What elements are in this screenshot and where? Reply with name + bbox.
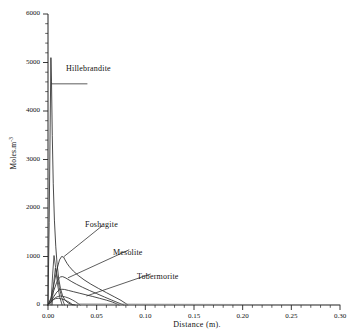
series-group <box>48 58 340 305</box>
x-tick-label: 0.25 <box>277 312 305 320</box>
y-tick-label: 1000 <box>0 252 40 260</box>
series-line <box>48 58 75 305</box>
y-axis-title: Moles.m-3 <box>8 118 19 188</box>
figure: Moles.m-3 Distance (m). Hillebrandite Fo… <box>0 0 358 336</box>
annotation-leader-line <box>64 226 102 257</box>
x-axis-title-text: Distance (m). <box>173 320 220 329</box>
annotation-tobermorite: Tobermorite <box>137 272 179 281</box>
y-tick-label: 2000 <box>0 203 40 211</box>
x-tick-label: 0.10 <box>131 312 159 320</box>
annotation-mesolite: Mesolite <box>113 248 143 257</box>
y-tick-label: 4000 <box>0 106 40 114</box>
y-tick-label: 5000 <box>0 58 40 66</box>
annotation-leaders <box>51 84 150 296</box>
axes-group <box>43 14 340 310</box>
x-tick-label: 0.15 <box>180 312 208 320</box>
x-tick-label: 0.05 <box>83 312 111 320</box>
y-axis-title-superscript: -3 <box>8 137 14 142</box>
x-tick-label: 0.30 <box>326 312 354 320</box>
chart-canvas <box>0 0 358 336</box>
x-tick-label: 0.00 <box>34 312 62 320</box>
annotation-hillebrandite: Hillebrandite <box>66 64 111 73</box>
x-axis-title: Distance (m). <box>0 320 358 329</box>
annotation-foshagite: Foshagite <box>85 220 118 229</box>
y-tick-label: 6000 <box>0 9 40 17</box>
x-tick-label: 0.20 <box>229 312 257 320</box>
y-tick-label: 0 <box>0 300 40 308</box>
y-tick-label: 3000 <box>0 155 40 163</box>
